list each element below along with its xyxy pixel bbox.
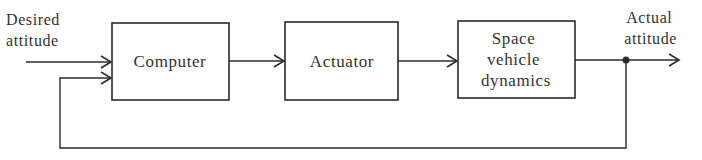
input-label-line: attitude <box>6 32 59 49</box>
block-actuator: Actuator <box>285 22 398 100</box>
control-block-diagram: Desired attitude Computer Actuator Space… <box>0 0 702 160</box>
input-label-line: Desired <box>6 11 60 28</box>
input-label: Desired attitude <box>6 11 65 49</box>
block-computer-label: Computer <box>134 52 207 71</box>
output-label-line: attitude <box>624 30 677 47</box>
block-dynamics: Space vehicle dynamics <box>458 21 575 98</box>
output-label-line: Actual <box>626 9 672 26</box>
block-computer: Computer <box>112 23 229 100</box>
output-label: Actual attitude <box>624 9 677 47</box>
block-actuator-label: Actuator <box>310 52 374 71</box>
